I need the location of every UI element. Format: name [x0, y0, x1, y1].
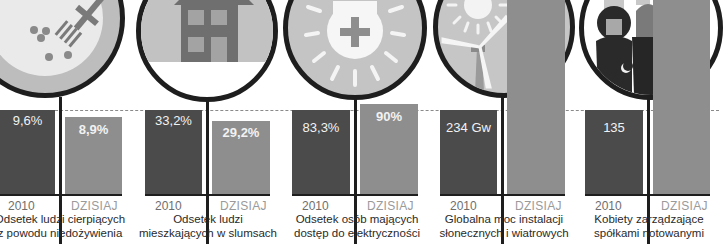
- bar-2010: 33,2%: [145, 110, 202, 194]
- value-label: 33,2%: [145, 113, 202, 128]
- baseline: [145, 194, 270, 196]
- value-label: 90%: [360, 109, 418, 124]
- year-label-2010: 2010: [450, 199, 477, 213]
- value-label: 135: [585, 120, 643, 135]
- value-label: 234 Gw: [440, 120, 497, 135]
- bar-today: [653, 0, 710, 194]
- caption: Globalna moc instalacji słonecznych i wi…: [429, 212, 579, 240]
- house-icon: [136, 0, 278, 102]
- baseline: [292, 194, 418, 196]
- value-label: 83,3%: [292, 120, 350, 135]
- bar-2010: 83,3%: [292, 110, 350, 194]
- value-label: 9,6%: [0, 113, 55, 128]
- year-label-today: DZISIAJ: [367, 199, 414, 213]
- bar-2010: 234 Gw: [440, 110, 497, 194]
- bar-today: [507, 0, 565, 194]
- caption: Odsetek ludzi mieszkających w slumsach: [133, 212, 283, 240]
- bar-today: 29,2%: [212, 121, 270, 194]
- year-label-today: DZISIAJ: [71, 199, 118, 213]
- bar-2010: 9,6%: [0, 110, 55, 194]
- caption: Odsetek osób mających dostęp do elektryc…: [282, 212, 432, 240]
- value-label: 29,2%: [212, 125, 270, 140]
- plate-fork-icon: [0, 0, 125, 98]
- year-label-2010: 2010: [595, 199, 622, 213]
- year-label-2010: 2010: [302, 199, 329, 213]
- year-label-today: DZISIAJ: [661, 199, 708, 213]
- caption: Kobiety zarządzające spółkami notowanymi: [574, 212, 724, 240]
- bar-2010: 135: [585, 110, 643, 194]
- baseline: [585, 194, 710, 196]
- caption: Odsetek ludzi cierpiących z powodu niedo…: [0, 212, 135, 240]
- light-bulb-icon: [283, 0, 427, 100]
- year-label-today: DZISIAJ: [220, 199, 267, 213]
- baseline: [0, 194, 122, 196]
- bar-today: 90%: [360, 104, 418, 194]
- year-label-today: DZISIAJ: [515, 199, 562, 213]
- value-label: 8,9%: [65, 122, 122, 137]
- year-label-2010: 2010: [155, 199, 182, 213]
- bar-today: 8,9%: [65, 117, 122, 194]
- baseline: [440, 194, 565, 196]
- year-label-2010: 2010: [8, 199, 35, 213]
